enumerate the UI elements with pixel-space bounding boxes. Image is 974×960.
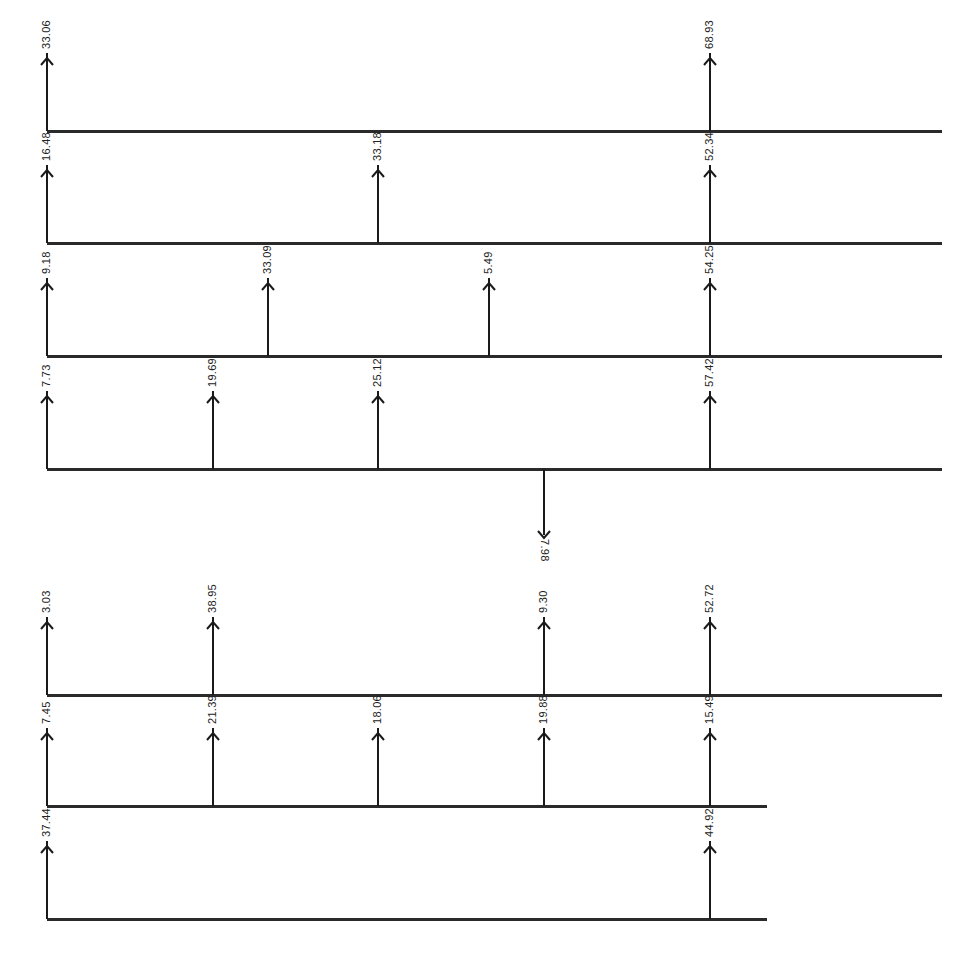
arrow-up-icon — [40, 727, 54, 737]
arrow-up-icon — [40, 52, 54, 62]
cash-flow-value-label: 16.48 — [40, 132, 52, 161]
timeline-baseline — [47, 918, 767, 921]
arrow-up-icon — [206, 616, 220, 626]
arrow-up-icon — [703, 277, 717, 287]
cash-flow-value-label: 9.18 — [40, 251, 52, 274]
cash-flow-value-label: 37.44 — [40, 808, 52, 837]
arrow-up-icon — [206, 727, 220, 737]
arrow-up-icon — [703, 616, 717, 626]
cash-flow-value-label: 15.49 — [703, 695, 715, 724]
arrow-up-icon — [537, 727, 551, 737]
cash-flow-value-label: 21.39 — [206, 695, 218, 724]
arrow-down-icon — [537, 526, 551, 536]
arrow-up-icon — [482, 277, 496, 287]
cash-flow-value-label: 38.95 — [206, 584, 218, 613]
arrow-up-icon — [371, 727, 385, 737]
cash-flow-value-label: 54.25 — [703, 245, 715, 274]
arrow-up-icon — [703, 52, 717, 62]
cash-flow-value-label: 5.49 — [482, 251, 494, 274]
timeline-baseline — [47, 805, 767, 808]
arrow-up-icon — [40, 164, 54, 174]
arrow-up-icon — [537, 616, 551, 626]
arrow-up-icon — [261, 277, 275, 287]
cash-flow-value-label: 33.18 — [371, 132, 383, 161]
arrow-up-icon — [371, 164, 385, 174]
timeline-baseline — [47, 694, 942, 697]
cash-flow-value-label: 19.88 — [537, 695, 549, 724]
cash-flow-value-label: 44.92 — [703, 808, 715, 837]
arrow-up-icon — [40, 390, 54, 400]
arrow-up-icon — [703, 840, 717, 850]
timeline-baseline — [47, 242, 942, 245]
arrow-up-icon — [40, 840, 54, 850]
cash-flow-value-label: 33.09 — [261, 245, 273, 274]
arrow-up-icon — [40, 277, 54, 287]
cash-flow-value-label: 25.12 — [371, 358, 383, 387]
cash-flow-value-label: 7.45 — [40, 701, 52, 724]
cash-flow-diagram: 33.0668.9316.4833.1852.349.1833.095.4954… — [0, 0, 974, 960]
cash-flow-value-label: 7.98 — [539, 539, 551, 562]
cash-flow-value-label: 57.42 — [703, 358, 715, 387]
arrow-up-icon — [371, 390, 385, 400]
cash-flow-value-label: 52.72 — [703, 584, 715, 613]
cash-flow-value-label: 3.03 — [40, 590, 52, 613]
arrow-up-icon — [703, 727, 717, 737]
arrow-up-icon — [703, 390, 717, 400]
timeline-baseline — [47, 355, 942, 358]
arrow-up-icon — [703, 164, 717, 174]
cash-flow-value-label: 7.73 — [40, 364, 52, 387]
timeline-baseline — [47, 130, 942, 133]
cash-flow-value-label: 33.06 — [40, 20, 52, 49]
cash-flow-value-label: 52.34 — [703, 132, 715, 161]
cash-flow-value-label: 19.69 — [206, 358, 218, 387]
cash-flow-value-label: 9.30 — [537, 590, 549, 613]
arrow-up-icon — [206, 390, 220, 400]
cash-flow-value-label: 18.06 — [371, 695, 383, 724]
timeline-baseline — [47, 468, 942, 471]
arrow-up-icon — [40, 616, 54, 626]
cash-flow-value-label: 68.93 — [703, 20, 715, 49]
